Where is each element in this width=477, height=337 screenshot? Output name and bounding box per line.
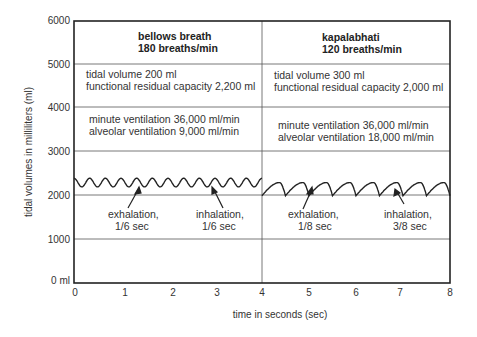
tidal-volume: tidal volume 300 ml [274,69,364,81]
y-tick: 3000 [48,146,71,157]
frc: functional residual capacity 2,000 ml [274,81,443,93]
y-axis: 6000 5000 4000 3000 2000 1000 0 ml tidal… [23,15,70,286]
annotation-sub: 1/8 sec [298,220,332,232]
y-axis-label: tidal volumes in milliliters (ml) [23,87,34,217]
panel-kapalabhati: kapalabhati 120 breaths/min tidal volume… [274,31,443,143]
panel-bellows: bellows breath 180 breaths/min tidal vol… [86,30,255,137]
annotation-sub: 1/6 sec [115,220,149,232]
annotation-sub: 3/8 sec [393,220,427,232]
minute-ventilation: minute ventilation 36,000 ml/min [278,119,429,131]
x-tick: 4 [259,287,265,298]
x-tick: 6 [353,287,359,298]
x-tick: 2 [170,287,176,298]
annotation-label: exhalation, [108,208,159,220]
x-tick: 7 [397,287,403,298]
x-tick: 1 [122,287,128,298]
annotation-label: inhalation, [196,208,244,220]
bellows-waveform [74,178,262,187]
alveolar-ventilation: alveolar ventilation 9,000 ml/min [89,125,239,137]
x-tick: 3 [214,287,220,298]
tidal-volume: tidal volume 200 ml [86,68,176,80]
y-tick: 6000 [48,15,71,26]
alveolar-ventilation: alveolar ventilation 18,000 ml/min [278,131,434,143]
panel-heading: bellows breath [138,30,212,42]
y-tick: 1000 [48,234,71,245]
x-axis: 0 1 2 3 4 5 6 7 8 time in seconds (sec) [72,287,453,320]
frc: functional residual capacity 2,200 ml [86,80,255,92]
x-axis-label: time in seconds (sec) [233,309,327,320]
annotation-label: inhalation, [384,208,432,220]
minute-ventilation: minute ventilation 36,000 ml/min [89,113,240,125]
annotation-sub: 1/6 sec [202,220,236,232]
x-tick: 8 [447,287,453,298]
panel-rate: 180 breaths/min [138,42,218,54]
panel-heading: kapalabhati [322,31,380,43]
y-tick: 0 ml [51,275,70,286]
y-tick: 5000 [48,59,71,70]
gridlines [74,21,450,283]
y-tick: 4000 [48,102,71,113]
kapalabhati-waveform [262,183,450,196]
x-tick: 5 [306,287,312,298]
chart: 6000 5000 4000 3000 2000 1000 0 ml tidal… [0,0,477,337]
y-tick: 2000 [48,190,71,201]
panel-rate: 120 breaths/min [322,43,402,55]
annotation-label: exhalation, [288,208,339,220]
annotations: exhalation, 1/6 sec inhalation, 1/6 sec … [108,208,432,232]
x-tick: 0 [72,287,78,298]
